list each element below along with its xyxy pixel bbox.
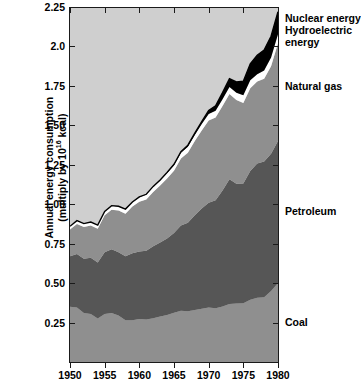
x-tick-1950: [70, 363, 71, 368]
y-tick-2.0: [70, 46, 75, 47]
x-tick-top-1980: [278, 8, 279, 13]
y-tick-1.75: [70, 86, 75, 87]
y-tick-right-1.25: [273, 165, 278, 166]
x-tick-top-1975: [243, 8, 244, 13]
x-tick-1975: [243, 363, 244, 368]
x-tick-top-1965: [174, 8, 175, 13]
series-label-petroleum: Petroleum: [285, 205, 336, 217]
y-axis-right-line: [278, 7, 279, 363]
x-tick-label-1965: 1965: [162, 370, 185, 381]
y-tick-right-1.00: [273, 204, 278, 205]
stacked-area-svg: [70, 7, 278, 362]
x-tick-label-1955: 1955: [93, 370, 116, 381]
series-label-natural-gas: Natural gas: [285, 80, 342, 92]
x-tick-1955: [105, 363, 106, 368]
y-tick-0.50: [70, 283, 75, 284]
x-tick-label-1960: 1960: [128, 370, 151, 381]
x-tick-1960: [139, 363, 140, 368]
x-tick-label-1980: 1980: [266, 370, 289, 381]
y-tick-label-2.0: 2.0: [50, 41, 65, 52]
y-tick-0.25: [70, 323, 75, 324]
plot-area: [70, 7, 278, 362]
y-tick-label-0.50: 0.50: [45, 278, 65, 289]
y-tick-right-2.0: [273, 46, 278, 47]
series-label-hydroelectric: Hydroelectric energy: [285, 24, 352, 48]
series-label-coal: Coal: [285, 316, 308, 328]
y-tick-1.25: [70, 165, 75, 166]
y-tick-0.75: [70, 244, 75, 245]
y-axis-title: Annual energy consumption(multiply by 10…: [43, 68, 68, 268]
y-tick-right-0.50: [273, 283, 278, 284]
y-tick-label-2.25: 2.25: [45, 2, 65, 13]
y-axis-line: [69, 7, 70, 363]
y-tick-right-1.75: [273, 86, 278, 87]
y-tick-label-0.25: 0.25: [45, 318, 65, 329]
y-tick-1.50: [70, 125, 75, 126]
x-tick-top-1970: [209, 8, 210, 13]
x-tick-top-1960: [139, 8, 140, 13]
x-tick-1965: [174, 363, 175, 368]
y-tick-right-0.25: [273, 323, 278, 324]
x-tick-label-1950: 1950: [58, 370, 81, 381]
series-label-nuclear: Nuclear energy: [285, 12, 361, 24]
x-tick-1980: [278, 363, 279, 368]
x-tick-top-1950: [70, 8, 71, 13]
x-tick-label-1970: 1970: [197, 370, 220, 381]
y-tick-1.00: [70, 204, 75, 205]
x-tick-label-1975: 1975: [232, 370, 255, 381]
series-label-hydroelectric-line2: energy: [285, 36, 319, 48]
y-tick-right-1.50: [273, 125, 278, 126]
x-tick-top-1955: [105, 8, 106, 13]
x-tick-1970: [209, 363, 210, 368]
y-tick-right-0.75: [273, 244, 278, 245]
series-label-hydroelectric-line1: Hydroelectric: [285, 24, 352, 36]
